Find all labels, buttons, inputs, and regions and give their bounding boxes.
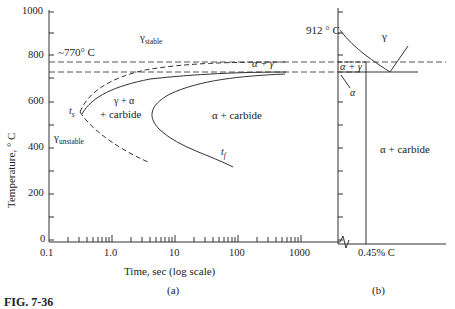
region-gamma-alpha-carbide: + carbide xyxy=(100,109,141,120)
annotation-770: ~770° C xyxy=(58,47,95,58)
acm-boundary-line xyxy=(390,46,408,72)
x-tick-1.0: 1.0 xyxy=(104,248,117,259)
ferrite-start-curve xyxy=(80,62,285,112)
y-axis-label: Temperature, ° C xyxy=(6,133,17,208)
x-tick-100: 100 xyxy=(229,248,245,259)
composition-label: 0.45% C xyxy=(358,248,395,259)
axis-break-icon xyxy=(340,236,349,248)
region-alpha-carbide-a: α + carbide xyxy=(212,110,262,121)
y-tick-200: 200 xyxy=(28,188,44,199)
region-gamma-stable: γstable xyxy=(140,32,162,43)
panel-a-label: (a) xyxy=(167,285,179,296)
alpha-pointer xyxy=(341,75,350,88)
x-tick-1000: 1000 xyxy=(289,248,310,259)
region-alpha-gamma-b: α + γ xyxy=(340,62,362,73)
x-ticks xyxy=(68,235,301,242)
region-alpha-carbide-b: α + carbide xyxy=(380,144,430,155)
panel-b-label: (b) xyxy=(372,285,385,296)
y-tick-600: 600 xyxy=(28,96,44,107)
y-ticks xyxy=(49,12,54,240)
x-tick-0.1: 0.1 xyxy=(40,248,53,259)
y-tick-1000: 1000 xyxy=(22,6,43,17)
figure-caption: FIG. 7-36 xyxy=(4,296,53,308)
region-gamma-alpha: γ + α xyxy=(114,96,134,106)
y-tick-0: 0 xyxy=(40,234,45,245)
y-tick-800: 800 xyxy=(28,50,44,61)
region-gamma-b: γ xyxy=(382,31,387,42)
tf-label: tf xyxy=(221,147,226,157)
y-tick-400: 400 xyxy=(28,142,44,153)
region-alpha-b: α xyxy=(350,88,355,98)
x-axis-label: Time, sec (log scale) xyxy=(124,266,215,277)
ts-label: ts xyxy=(69,106,75,116)
panel-b-y-ticks xyxy=(338,12,343,240)
region-gamma-unstable: γunstable xyxy=(54,132,84,143)
temp-912-label: 912 ° C xyxy=(306,25,340,36)
region-alpha-gamma-a: α + γ xyxy=(252,59,274,70)
x-tick-10: 10 xyxy=(169,248,180,259)
